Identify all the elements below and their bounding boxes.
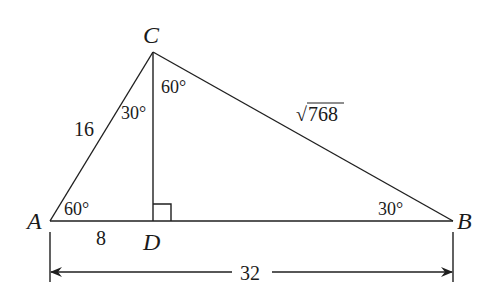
vertex-label-c: C [143, 22, 160, 48]
side-label-ad: 8 [96, 227, 106, 249]
angle-label-dcb: 60° [161, 77, 186, 97]
radicand: 768 [308, 103, 338, 125]
angle-label-acd: 30° [121, 103, 146, 123]
radical-sign: √ [296, 103, 307, 125]
angle-label-a: 60° [64, 199, 89, 219]
side-label-cb: √ 768 [296, 103, 344, 125]
triangle-diagram: C A B D 16 8 32 √ 768 60° 30° 30° 60° [0, 0, 494, 300]
angle-label-b: 30° [378, 199, 403, 219]
vertex-label-d: D [142, 229, 160, 255]
side-cb [153, 52, 453, 221]
dimension-label-ab: 32 [240, 262, 260, 284]
side-ac [50, 52, 153, 221]
right-angle-marker [153, 204, 171, 221]
vertex-label-b: B [457, 208, 472, 234]
vertex-label-a: A [25, 208, 42, 234]
side-label-ac: 16 [74, 118, 94, 140]
